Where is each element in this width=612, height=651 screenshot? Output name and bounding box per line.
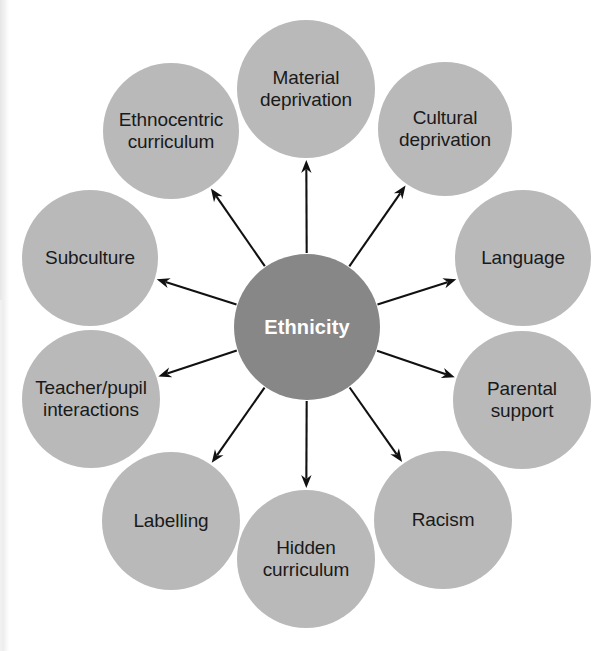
node-parental-support-label: Parental support — [478, 378, 566, 422]
node-cultural-deprivation-label: Cultural deprivation — [390, 107, 500, 151]
node-labelling[interactable]: Labelling — [102, 452, 240, 590]
node-ethnocentric-curriculum[interactable]: Ethnocentric curriculum — [103, 63, 239, 199]
node-ethnocentric-curriculum-label: Ethnocentric curriculum — [110, 109, 232, 153]
node-subculture-label: Subculture — [36, 247, 144, 269]
node-material-deprivation-label: Material deprivation — [251, 67, 361, 111]
arrow-to-teacher-pupil — [158, 350, 236, 377]
arrow-to-ethnocentric-curriculum — [211, 189, 265, 267]
node-language-label: Language — [472, 247, 574, 269]
node-parental-support[interactable]: Parental support — [453, 331, 591, 469]
arrow-to-material-deprivation — [301, 160, 311, 253]
arrow-to-hidden-curriculum — [301, 401, 311, 488]
node-teacher-pupil[interactable]: Teacher/pupil interactions — [22, 330, 160, 468]
node-teacher-pupil-label: Teacher/pupil interactions — [26, 377, 156, 421]
node-racism-label: Racism — [403, 509, 484, 531]
node-language[interactable]: Language — [455, 190, 591, 326]
center-node-ethnicity[interactable]: Ethnicity — [234, 254, 380, 400]
arrow-to-language — [377, 278, 456, 304]
arrow-to-cultural-deprivation — [349, 186, 405, 267]
center-node-ethnicity-label: Ethnicity — [255, 316, 358, 339]
arrow-to-labelling — [212, 388, 265, 463]
node-cultural-deprivation[interactable]: Cultural deprivation — [378, 62, 512, 196]
arrow-to-racism — [350, 387, 402, 461]
node-labelling-label: Labelling — [124, 510, 217, 532]
node-hidden-curriculum[interactable]: Hidden curriculum — [237, 490, 375, 628]
ethnicity-radial-diagram: Material deprivationCultural deprivation… — [0, 0, 612, 651]
node-material-deprivation[interactable]: Material deprivation — [237, 20, 375, 158]
node-hidden-curriculum-label: Hidden curriculum — [254, 537, 359, 581]
node-racism[interactable]: Racism — [374, 451, 512, 589]
arrow-to-parental-support — [377, 351, 455, 378]
node-subculture[interactable]: Subculture — [22, 190, 158, 326]
arrow-to-subculture — [157, 278, 237, 304]
